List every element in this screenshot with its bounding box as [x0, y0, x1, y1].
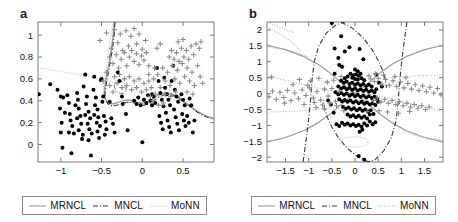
legend-line-mncl-icon: [322, 202, 339, 210]
svg-text:1: 1: [257, 56, 262, 67]
svg-text:−1: −1: [55, 165, 66, 176]
legend-entry-mrncl: MRNCL: [258, 200, 315, 211]
legend-label-mrncl: MRNCL: [279, 200, 315, 211]
svg-text:−0.5: −0.5: [322, 165, 341, 176]
svg-text:1.5: 1.5: [418, 165, 431, 176]
legend-label-mncl: MNCL: [114, 200, 143, 211]
legend-label-monn: MoNN: [400, 200, 429, 211]
svg-text:0.8: 0.8: [20, 51, 33, 62]
svg-text:−0.5: −0.5: [243, 104, 262, 115]
svg-text:0.4: 0.4: [20, 95, 33, 106]
svg-text:1: 1: [399, 165, 404, 176]
panel-b: b −1.5−1−0.500.511.5−2−1.5−1−0.500.511.5…: [229, 0, 458, 222]
legend-line-monn-icon: [150, 202, 167, 210]
legend-line-monn-icon: [379, 202, 396, 210]
panel-a-legend: MRNCL MNCL MoNN: [22, 196, 207, 215]
svg-text:−0.5: −0.5: [92, 165, 111, 176]
svg-text:−1: −1: [303, 165, 314, 176]
legend-label-mrncl: MRNCL: [50, 200, 86, 211]
legend-entry-mncl: MNCL: [322, 200, 372, 211]
svg-text:0.2: 0.2: [20, 117, 33, 128]
panel-a: a −1−0.500.500.20.40.60.81 MRNCL MNCL Mo…: [0, 0, 229, 222]
legend-entry-mrncl: MRNCL: [29, 200, 86, 211]
svg-text:0: 0: [28, 139, 33, 150]
svg-text:0.5: 0.5: [372, 165, 385, 176]
legend-line-mncl-icon: [93, 202, 110, 210]
series-class-dot: [326, 21, 384, 162]
svg-text:0: 0: [352, 165, 357, 176]
svg-text:−1: −1: [251, 120, 262, 131]
legend-line-mrncl-icon: [258, 202, 275, 210]
svg-text:0.6: 0.6: [20, 73, 33, 84]
series-class-dot: [37, 64, 197, 158]
panel-a-plot: −1−0.500.500.20.40.60.81: [0, 0, 229, 190]
svg-text:−2: −2: [251, 152, 262, 163]
panel-b-legend: MRNCL MNCL MoNN: [251, 196, 436, 215]
legend-label-mncl: MNCL: [343, 200, 372, 211]
panel-b-plot: −1.5−1−0.500.511.5−2−1.5−1−0.500.511.52: [229, 0, 458, 190]
svg-text:0.5: 0.5: [176, 165, 189, 176]
legend-entry-monn: MoNN: [150, 200, 200, 211]
legend-entry-mncl: MNCL: [93, 200, 143, 211]
svg-text:0.5: 0.5: [249, 72, 262, 83]
legend-label-monn: MoNN: [171, 200, 200, 211]
svg-text:0: 0: [257, 88, 262, 99]
legend-line-mrncl-icon: [29, 202, 46, 210]
figure-container: a −1−0.500.500.20.40.60.81 MRNCL MNCL Mo…: [0, 0, 458, 222]
svg-text:−1.5: −1.5: [276, 165, 295, 176]
svg-text:−1.5: −1.5: [243, 136, 262, 147]
svg-text:0: 0: [140, 165, 145, 176]
legend-entry-monn: MoNN: [379, 200, 429, 211]
svg-text:2: 2: [257, 24, 262, 35]
svg-text:1.5: 1.5: [249, 40, 262, 51]
svg-text:1: 1: [28, 30, 33, 41]
